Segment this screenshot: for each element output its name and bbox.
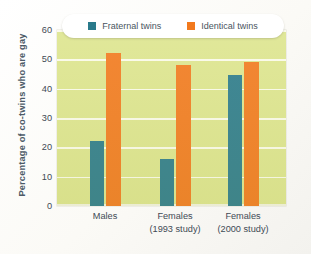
legend-entry-identical: Identical twins — [187, 21, 258, 31]
x-label-males: Males — [93, 210, 118, 223]
legend-label-fraternal: Fraternal twins — [102, 21, 161, 31]
y-tick-label: 20 — [22, 142, 52, 152]
x-label-males-line1: Males — [93, 211, 118, 221]
y-tick-label: 30 — [22, 113, 52, 123]
bar-identical-females-1993 — [176, 65, 191, 206]
y-tick-label: 0 — [22, 201, 52, 211]
bar-fraternal-females-2000 — [228, 75, 242, 206]
identical-swatch-icon — [187, 22, 195, 30]
x-label-females-1993: Females (1993 study) — [149, 210, 200, 235]
bar-identical-females-2000 — [244, 62, 259, 206]
fraternal-swatch-icon — [88, 22, 96, 30]
legend-label-identical: Identical twins — [201, 21, 258, 31]
x-label-females-2000-line1: Females — [225, 211, 260, 221]
y-tick-label: 50 — [22, 54, 52, 64]
x-label-females-2000-line2: (2000 study) — [217, 223, 268, 236]
y-tick-label: 60 — [22, 25, 52, 35]
chart-legend: Fraternal twins Identical twins — [62, 14, 284, 38]
y-tick-label: 10 — [22, 172, 52, 182]
x-label-females-1993-line1: Females — [157, 211, 192, 221]
x-axis-labels: Males Females (1993 study) Females (2000… — [57, 210, 286, 250]
bar-chart-figure: Percentage of co-twins who are gay 60 50… — [0, 0, 311, 254]
y-axis-tick-labels: 60 50 40 30 20 10 0 — [22, 30, 52, 206]
x-label-females-2000: Females (2000 study) — [217, 210, 268, 235]
bar-fraternal-females-1993 — [160, 159, 174, 206]
bars-layer — [57, 30, 286, 206]
bar-fraternal-males — [90, 141, 104, 206]
bar-identical-males — [106, 53, 121, 206]
x-label-females-1993-line2: (1993 study) — [149, 223, 200, 236]
legend-entry-fraternal: Fraternal twins — [88, 21, 161, 31]
y-tick-label: 40 — [22, 84, 52, 94]
plot-area — [57, 30, 286, 206]
